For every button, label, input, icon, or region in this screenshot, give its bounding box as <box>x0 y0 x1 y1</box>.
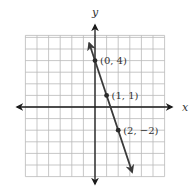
data-point <box>116 128 121 133</box>
data-point <box>93 58 98 63</box>
data-point <box>104 93 109 98</box>
coordinate-plane: (0, 4)(1, 1)(2, −2) x y <box>0 0 195 194</box>
point-label: (2, −2) <box>123 125 158 136</box>
point-label: (0, 4) <box>100 55 127 66</box>
point-label: (1, 1) <box>112 90 139 101</box>
y-axis-label: y <box>91 6 99 19</box>
x-axis-label: x <box>182 101 189 114</box>
